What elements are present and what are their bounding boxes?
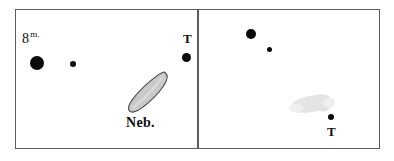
left-star-t — [182, 53, 191, 62]
magnitude-superscript: m. — [30, 29, 40, 39]
left-chart-panel: 8m. T Neb. — [15, 9, 198, 149]
right-star-t-label: T — [327, 125, 336, 138]
left-panel-sky-field: 8m. T Neb. — [16, 10, 197, 148]
astronomical-comparison-figure: 8m. T Neb. — [0, 0, 394, 161]
magnitude-label-8: 8m. — [22, 30, 40, 46]
right-panel-sky-field: T — [199, 10, 379, 148]
left-bright-star — [30, 56, 44, 70]
left-nebula-label: Neb. — [126, 116, 155, 130]
magnitude-value: 8 — [22, 31, 29, 46]
right-bright-star — [246, 29, 256, 39]
left-star-t-label: T — [183, 32, 192, 45]
right-chart-panel: T — [198, 9, 380, 149]
left-faint-star — [70, 61, 76, 67]
right-star-t — [328, 114, 334, 120]
left-nebula-shape — [121, 70, 173, 120]
right-faint-star — [267, 47, 272, 52]
